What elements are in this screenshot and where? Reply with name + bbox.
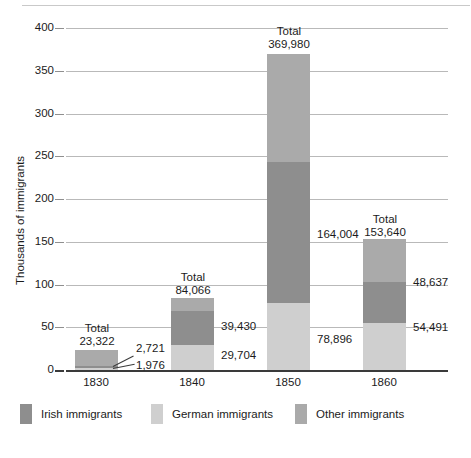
total-value-1830: 23,322 bbox=[57, 335, 137, 348]
bar-segment-german-1840[interactable] bbox=[171, 345, 214, 370]
bar-segment-label-german-1850: 78,896 bbox=[317, 333, 352, 345]
bar-segment-label-irish-1830: 2,721 bbox=[136, 342, 165, 354]
bar-total-label-1860: Total 153,640 bbox=[345, 213, 425, 238]
legend-label-other: Other immigrants bbox=[316, 408, 404, 420]
legend-swatch-irish-icon bbox=[20, 404, 32, 424]
x-tick-1860: 1860 bbox=[344, 376, 424, 388]
figure-top-border bbox=[22, 5, 470, 6]
legend-label-german: German immigrants bbox=[172, 408, 273, 420]
tick-stub-400 bbox=[55, 28, 64, 29]
tick-stub-150 bbox=[55, 242, 64, 243]
gridline-200 bbox=[66, 199, 448, 200]
total-word-1830: Total bbox=[57, 322, 137, 335]
y-tick-0: 0 bbox=[14, 364, 54, 375]
y-tick-400: 400 bbox=[14, 22, 54, 33]
bar-group-1830[interactable] bbox=[75, 350, 118, 370]
total-value-1860: 153,640 bbox=[345, 226, 425, 239]
gridline-350 bbox=[66, 71, 448, 72]
bar-segment-label-irish-1860: 48,637 bbox=[413, 276, 448, 288]
y-tick-350: 350 bbox=[14, 65, 54, 76]
tick-stub-350 bbox=[55, 71, 64, 72]
bar-segment-label-german-1830: 1,976 bbox=[136, 359, 165, 371]
bar-group-1850[interactable] bbox=[267, 54, 310, 370]
legend-swatch-other-icon bbox=[295, 404, 307, 424]
tick-stub-0 bbox=[55, 370, 64, 372]
immigration-stacked-bar-chart: 400 350 300 250 200 150 100 50 0 Thousan… bbox=[0, 0, 471, 458]
x-axis-baseline bbox=[66, 370, 448, 372]
bar-segment-german-1850[interactable] bbox=[267, 303, 310, 371]
bar-total-label-1840: Total 84,066 bbox=[153, 271, 233, 296]
x-tick-1840: 1840 bbox=[152, 376, 232, 388]
bar-segment-irish-1840[interactable] bbox=[171, 311, 214, 345]
total-word-1850: Total bbox=[249, 25, 329, 38]
total-word-1840: Total bbox=[153, 271, 233, 284]
bar-segment-label-irish-1840: 39,430 bbox=[221, 320, 256, 332]
bar-segment-label-german-1840: 29,704 bbox=[221, 349, 256, 361]
bar-segment-other-1840[interactable] bbox=[171, 298, 214, 311]
y-tick-50: 50 bbox=[14, 321, 54, 332]
x-axis-tick-labels: 1830 1840 1850 1860 bbox=[66, 376, 448, 392]
bar-segment-other-1830[interactable] bbox=[75, 350, 118, 366]
bar-group-1840[interactable] bbox=[171, 298, 214, 370]
bar-segment-german-1860[interactable] bbox=[363, 323, 406, 370]
tick-stub-250 bbox=[55, 156, 64, 157]
legend-swatch-german-icon bbox=[151, 404, 163, 424]
gridline-250 bbox=[66, 156, 448, 157]
total-word-1860: Total bbox=[345, 213, 425, 226]
legend-item-german[interactable]: German immigrants bbox=[151, 404, 273, 424]
bar-group-1860[interactable] bbox=[363, 239, 406, 370]
bar-segment-other-1860[interactable] bbox=[363, 239, 406, 282]
bar-segment-irish-1830[interactable] bbox=[75, 366, 118, 368]
tick-stub-200 bbox=[55, 199, 64, 200]
plot-area: Total 23,322 2,721 1,976 Total 84,066 39… bbox=[66, 28, 448, 370]
total-value-1840: 84,066 bbox=[153, 284, 233, 297]
legend-item-irish[interactable]: Irish immigrants bbox=[20, 404, 122, 424]
bar-segment-other-1850[interactable] bbox=[267, 54, 310, 163]
bar-segment-irish-1860[interactable] bbox=[363, 282, 406, 324]
chart-legend: Irish immigrants German immigrants Other… bbox=[20, 404, 450, 428]
bar-total-label-1850: Total 369,980 bbox=[249, 25, 329, 50]
tick-stub-100 bbox=[55, 285, 64, 286]
bar-total-label-1830: Total 23,322 bbox=[57, 322, 137, 347]
tick-stub-300 bbox=[55, 114, 64, 115]
legend-label-irish: Irish immigrants bbox=[41, 408, 122, 420]
bar-segment-german-1830[interactable] bbox=[75, 368, 118, 370]
total-value-1850: 369,980 bbox=[249, 38, 329, 51]
x-tick-1850: 1850 bbox=[248, 376, 328, 388]
legend-item-other[interactable]: Other immigrants bbox=[295, 404, 404, 424]
bar-segment-irish-1850[interactable] bbox=[267, 162, 310, 302]
x-tick-1830: 1830 bbox=[56, 376, 136, 388]
gridline-300 bbox=[66, 114, 448, 115]
bar-segment-label-german-1860: 54,491 bbox=[413, 321, 448, 333]
y-axis-title: Thousands of immigrants bbox=[14, 105, 26, 285]
